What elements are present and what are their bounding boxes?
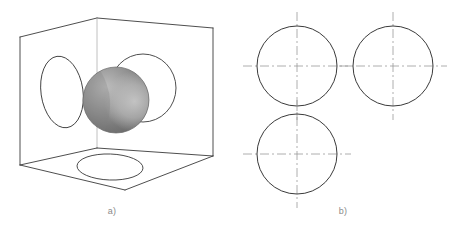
panel-b-caption: b) [339, 206, 348, 216]
top-right-view-circle [339, 12, 447, 120]
panel-a-caption: a) [108, 206, 117, 216]
panel-b-orthographic-views: b) [243, 12, 447, 216]
technical-drawing-figure: a) b) [0, 0, 451, 227]
panel-a-pictorial-cube: a) [20, 18, 213, 216]
shaded-sphere [83, 67, 149, 133]
